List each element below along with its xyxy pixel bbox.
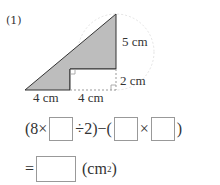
answer-box-result[interactable]	[36, 156, 76, 182]
eq-text: (8×	[25, 120, 47, 138]
equation-line-1: (8× ÷2)−( × )	[25, 117, 182, 141]
eq-text: )	[177, 120, 182, 138]
eq-text: ×	[140, 120, 149, 138]
answer-box-1[interactable]	[49, 117, 73, 141]
eq-text: ÷2)−(	[75, 120, 111, 138]
dim-5cm: 5 cm	[122, 34, 148, 50]
answer-box-3[interactable]	[151, 117, 175, 141]
answer-box-2[interactable]	[114, 117, 138, 141]
unit-text: (cm	[82, 160, 107, 178]
dim-4cm-right: 4 cm	[78, 90, 104, 106]
equation-line-2: = (cm2)	[25, 156, 117, 182]
dim-2cm: 2 cm	[120, 73, 146, 89]
rectangle-cutout	[70, 69, 116, 90]
unit-text: )	[111, 160, 116, 178]
eq-text: =	[25, 160, 34, 178]
dim-4cm-left: 4 cm	[33, 90, 59, 106]
